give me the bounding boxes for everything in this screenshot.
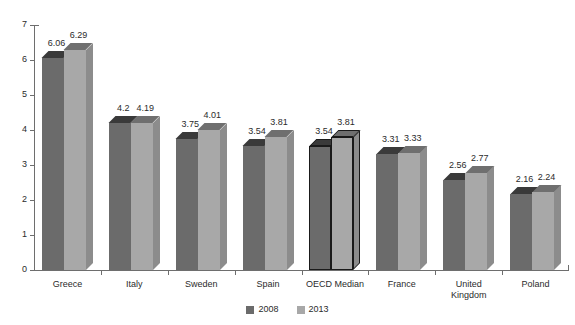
chart-legend: 20082013 — [0, 305, 575, 314]
bar-front-face — [109, 123, 131, 270]
bar-front-face — [331, 137, 353, 270]
y-axis-label: 2 — [0, 195, 27, 204]
bar-front-face — [131, 123, 153, 270]
category-tick — [168, 270, 169, 275]
bar-front-face — [64, 50, 86, 270]
bar-side-face — [287, 130, 294, 270]
bar-2008-italy — [109, 123, 131, 270]
category-label-spain: Spain — [235, 279, 302, 290]
legend-label: 2013 — [309, 305, 329, 314]
bar-front-face — [376, 154, 398, 270]
y-axis-tick — [30, 165, 35, 166]
bar-side-face — [220, 123, 227, 270]
bar-side-face — [487, 166, 494, 270]
legend-item-2013[interactable]: 2013 — [297, 305, 329, 314]
bar-front-face — [465, 173, 487, 270]
category-label-oecd-median: OECD Median — [302, 279, 369, 290]
legend-swatch-icon — [297, 306, 305, 314]
bar-2008-united-kingdom — [443, 180, 465, 270]
legend-swatch-icon — [246, 306, 254, 314]
y-axis-tick — [30, 60, 35, 61]
category-label-greece: Greece — [34, 279, 101, 290]
category-label-italy: Italy — [101, 279, 168, 290]
bar-front-face — [176, 139, 198, 270]
bar-front-face — [510, 194, 532, 270]
bar-2008-spain — [243, 146, 265, 270]
bar-side-face — [420, 146, 427, 270]
y-axis-tick — [30, 270, 35, 271]
legend-item-2008[interactable]: 2008 — [246, 305, 278, 314]
bar-side-face — [353, 130, 360, 270]
bar-front-face — [398, 153, 420, 270]
y-axis-tick — [30, 25, 35, 26]
y-axis-label: 6 — [0, 55, 27, 64]
bar-side-face — [153, 116, 160, 270]
y-axis-label: 0 — [0, 265, 27, 274]
bar-chart: 01234567 6.066.294.24.193.754.013.543.81… — [0, 0, 575, 325]
bar-front-face — [309, 146, 331, 270]
value-label: 3.33 — [393, 134, 433, 143]
value-label: 4.19 — [125, 104, 165, 113]
category-label-france: France — [368, 279, 435, 290]
bar-side-face — [86, 43, 93, 270]
bar-2013-greece — [64, 50, 86, 270]
bar-front-face — [42, 58, 64, 270]
value-label: 2.77 — [460, 154, 500, 163]
bar-2013-france — [398, 153, 420, 270]
value-label: 2.24 — [527, 173, 567, 182]
bar-front-face — [198, 130, 220, 270]
bar-front-face — [265, 137, 287, 270]
category-tick — [235, 270, 236, 275]
bar-side-face — [554, 185, 561, 270]
bar-2008-france — [376, 154, 398, 270]
bar-2013-spain — [265, 137, 287, 270]
y-axis-tick — [30, 130, 35, 131]
y-axis-tick — [30, 95, 35, 96]
y-axis-label: 7 — [0, 20, 27, 29]
bar-2008-greece — [42, 58, 64, 270]
y-axis-label: 5 — [0, 90, 27, 99]
bar-2013-poland — [532, 192, 554, 270]
bar-2008-sweden — [176, 139, 198, 270]
y-axis-label: 3 — [0, 160, 27, 169]
category-tick — [101, 270, 102, 275]
bar-2008-oecd-median — [309, 146, 331, 270]
y-axis-label: 4 — [0, 125, 27, 134]
category-tick — [368, 270, 369, 275]
legend-label: 2008 — [258, 305, 278, 314]
category-tick — [502, 270, 503, 275]
value-label: 6.29 — [58, 31, 98, 40]
category-label-sweden: Sweden — [168, 279, 235, 290]
bar-front-face — [243, 146, 265, 270]
value-label: 4.01 — [192, 111, 232, 120]
bar-2013-sweden — [198, 130, 220, 270]
y-axis-label: 1 — [0, 230, 27, 239]
bar-2013-united-kingdom — [465, 173, 487, 270]
value-label: 3.81 — [326, 118, 366, 127]
value-label: 3.81 — [259, 118, 299, 127]
bar-2008-poland — [510, 194, 532, 270]
bar-front-face — [532, 192, 554, 270]
category-tick — [302, 270, 303, 275]
bar-2013-italy — [131, 123, 153, 270]
y-axis-tick — [30, 200, 35, 201]
y-axis-tick — [30, 235, 35, 236]
x-axis-right-cap — [568, 265, 569, 271]
bar-2013-oecd-median — [331, 137, 353, 270]
category-tick — [435, 270, 436, 275]
bar-front-face — [443, 180, 465, 270]
category-label-united-kingdom: United Kingdom — [435, 279, 502, 300]
category-label-poland: Poland — [502, 279, 569, 290]
